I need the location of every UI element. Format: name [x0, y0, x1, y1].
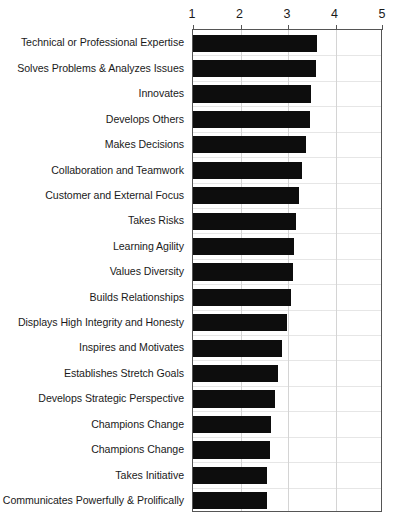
category-label: Communicates Powerfully & Prolifically: [3, 487, 184, 514]
category-label: Technical or Professional Expertise: [21, 29, 184, 56]
bar: [193, 289, 291, 306]
category-label: Customer and External Focus: [45, 182, 184, 209]
bar-row: [193, 259, 381, 286]
category-label-column: Technical or Professional ExpertiseSolve…: [0, 29, 188, 512]
bar-row: [193, 55, 381, 82]
bar: [193, 467, 267, 484]
bar: [193, 340, 282, 357]
x-axis-tick-label: 1: [189, 7, 196, 21]
x-axis-tick-label: 4: [331, 7, 338, 21]
category-label: Learning Agility: [113, 232, 184, 259]
bar: [193, 136, 306, 153]
category-label: Inspires and Motivates: [79, 334, 184, 361]
bar-row: [193, 30, 381, 57]
bar-row: [193, 462, 381, 489]
bar: [193, 416, 271, 433]
category-label: Develops Others: [106, 105, 184, 132]
category-label: Displays High Integrity and Honesty: [18, 309, 184, 336]
bar-row: [193, 411, 381, 438]
x-axis-tick-label: 5: [379, 7, 386, 21]
category-label: Builds Relationships: [90, 283, 184, 310]
bar: [193, 60, 316, 77]
x-axis-tick-mark: [382, 25, 383, 30]
category-label: Develops Strategic Perspective: [38, 385, 184, 412]
bar: [193, 213, 296, 230]
bar: [193, 111, 310, 128]
bar: [193, 263, 293, 280]
bar: [193, 35, 317, 52]
category-label: Establishes Stretch Goals: [64, 359, 184, 386]
category-label: Innovates: [139, 80, 185, 107]
bar: [193, 187, 299, 204]
category-label: Makes Decisions: [105, 131, 184, 158]
bar: [193, 390, 275, 407]
category-label: Takes Initiative: [115, 461, 184, 488]
x-axis-tick-label: 2: [236, 7, 243, 21]
category-label: Values Diversity: [110, 258, 184, 285]
category-label: Champions Change: [91, 436, 184, 463]
bar: [193, 492, 267, 509]
category-label: Takes Risks: [128, 207, 184, 234]
bar-row: [193, 106, 381, 133]
bar-row: [193, 233, 381, 260]
bar-row: [193, 183, 381, 210]
bar: [193, 162, 302, 179]
bar-row: [193, 157, 381, 184]
bar-row: [193, 132, 381, 159]
bar: [193, 365, 278, 382]
x-axis-tick-label-row: 12345: [0, 0, 393, 29]
bar-row: [193, 310, 381, 337]
bar: [193, 85, 311, 102]
bar: [193, 314, 287, 331]
bar-row: [193, 208, 381, 235]
bar-row: [193, 386, 381, 413]
x-axis-tick-label: 3: [284, 7, 291, 21]
bar-row: [193, 335, 381, 362]
horizontal-bar-chart: 12345 Technical or Professional Expertis…: [0, 0, 393, 526]
bar: [193, 238, 294, 255]
category-label: Collaboration and Teamwork: [51, 156, 184, 183]
bar-row: [193, 488, 381, 515]
bar: [193, 441, 270, 458]
category-label: Solves Problems & Analyzes Issues: [17, 54, 184, 81]
bar-row: [193, 81, 381, 108]
category-label: Champions Change: [91, 410, 184, 437]
bar-row: [193, 360, 381, 387]
bar-row: [193, 437, 381, 464]
bar-row: [193, 284, 381, 311]
plot-area: [192, 29, 382, 512]
